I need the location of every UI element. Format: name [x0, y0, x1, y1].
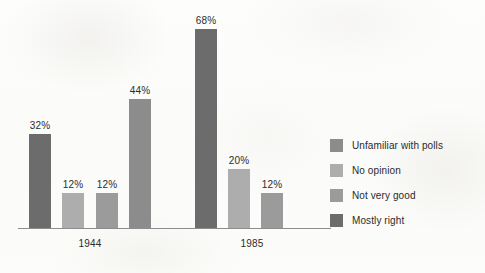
bar-rect	[261, 193, 283, 228]
bar-1985-no-opinion[interactable]: 20%	[228, 169, 250, 228]
legend-item-unfamiliar-with-polls[interactable]: Unfamiliar with polls	[330, 133, 485, 158]
bar-1944-mostly-right[interactable]: 32%	[29, 134, 51, 228]
bar-value-label: 32%	[30, 120, 50, 131]
bar-value-label: 12%	[262, 179, 282, 190]
legend-color-swatch	[330, 139, 343, 152]
bar-value-label: 20%	[229, 155, 249, 166]
x-axis-label-1944: 1944	[78, 238, 101, 249]
bar-value-label: 12%	[97, 179, 117, 190]
legend-item-label: Not very good	[352, 190, 416, 201]
legend-color-swatch	[330, 164, 343, 177]
bar-value-label: 44%	[130, 85, 150, 96]
legend-item-not-very-good[interactable]: Not very good	[330, 183, 485, 208]
bar-value-label: 12%	[63, 179, 83, 190]
legend-color-swatch	[330, 214, 343, 227]
bar-rect	[62, 193, 84, 228]
legend-item-no-opinion[interactable]: No opinion	[330, 158, 485, 183]
bar-1944-unfamiliar-with-polls[interactable]: 44%	[129, 99, 151, 228]
x-axis-label-1985: 1985	[240, 238, 263, 249]
x-axis-line	[18, 228, 331, 229]
bar-1985-not-very-good[interactable]: 12%	[261, 193, 283, 228]
chart-legend: Unfamiliar with pollsNo opinionNot very …	[330, 133, 485, 233]
legend-item-label: Unfamiliar with polls	[352, 140, 443, 151]
legend-item-label: No opinion	[352, 165, 401, 176]
bar-rect	[29, 134, 51, 228]
legend-color-swatch	[330, 189, 343, 202]
legend-item-label: Mostly right	[352, 215, 404, 226]
bar-1985-mostly-right[interactable]: 68%	[195, 29, 217, 228]
bar-rect	[96, 193, 118, 228]
bar-value-label: 68%	[196, 15, 216, 26]
bar-rect	[195, 29, 217, 228]
bar-rect	[129, 99, 151, 228]
bar-rect	[228, 169, 250, 228]
legend-item-mostly-right[interactable]: Mostly right	[330, 208, 485, 233]
bar-1944-not-very-good[interactable]: 12%	[96, 193, 118, 228]
bar-chart: 32%12%12%44%68%20%12% 19441985 Unfamilia…	[0, 0, 485, 273]
plot-area: 32%12%12%44%68%20%12% 19441985	[0, 0, 340, 273]
bar-1944-no-opinion[interactable]: 12%	[62, 193, 84, 228]
